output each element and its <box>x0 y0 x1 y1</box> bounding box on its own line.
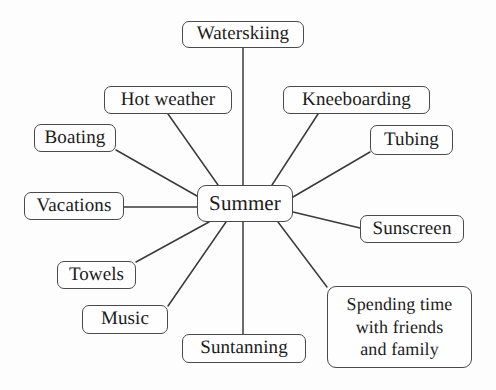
connector-boating <box>116 150 197 196</box>
mind-map-node-suntanning[interactable]: Suntanning <box>182 334 306 363</box>
mind-map-node-boating[interactable]: Boating <box>34 124 116 152</box>
mind-map-node-music[interactable]: Music <box>82 305 168 334</box>
connector-hot-weather <box>168 114 218 185</box>
connector-kneeboarding <box>272 114 318 185</box>
mind-map-node-tubing[interactable]: Tubing <box>370 125 453 155</box>
mind-map-node-kneeboarding[interactable]: Kneeboarding <box>283 86 430 114</box>
connector-tubing <box>293 152 370 197</box>
mind-map-center-node[interactable]: Summer <box>197 185 293 222</box>
mind-map-diagram: SummerWaterskiingHot weatherKneeboarding… <box>0 0 496 390</box>
mind-map-node-sunscreen[interactable]: Sunscreen <box>360 215 464 243</box>
connector-music <box>168 222 226 306</box>
mind-map-node-towels[interactable]: Towels <box>57 261 136 289</box>
mind-map-node-hot-weather[interactable]: Hot weather <box>104 86 232 114</box>
connector-spending-time <box>278 222 327 287</box>
mind-map-node-vacations[interactable]: Vacations <box>24 192 124 220</box>
connector-towels <box>136 222 209 262</box>
connector-sunscreen <box>293 212 360 228</box>
mind-map-node-waterskiing[interactable]: Waterskiing <box>182 21 304 48</box>
mind-map-node-spending-time[interactable]: Spending time with friends and family <box>327 286 472 368</box>
